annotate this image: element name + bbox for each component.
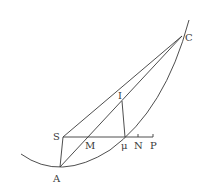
- label-a: A: [52, 173, 61, 184]
- label-p: P: [150, 140, 157, 151]
- label-c: C: [185, 32, 193, 43]
- label-i: I: [118, 90, 122, 101]
- segment-sc: [63, 36, 182, 137]
- label-n: N: [134, 140, 143, 151]
- label-m: M: [85, 140, 95, 151]
- segment-sa: [60, 137, 63, 167]
- diagram-canvas: C S A M μ N P I: [0, 0, 210, 192]
- segment-i-mu: [122, 101, 125, 137]
- label-s: S: [53, 131, 60, 142]
- parabola-curve: [21, 20, 189, 167]
- label-mu: μ: [121, 140, 128, 151]
